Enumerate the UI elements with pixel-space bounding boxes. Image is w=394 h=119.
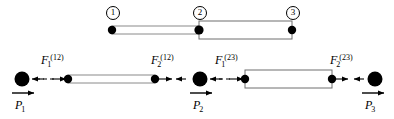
fb-element-12 <box>68 75 155 83</box>
freebody-group <box>15 70 383 88</box>
assembly-element-12 <box>112 26 199 34</box>
fb-node-1 <box>15 72 30 87</box>
bar-assembly-figure: 1 2 3 F1(12) F2(12) F1(23) F2(23) P1 P2 … <box>0 0 394 119</box>
assembly-node-2 <box>194 25 203 34</box>
load-P2-subscript: 2 <box>199 105 203 114</box>
force-F1-23-superscript: (23) <box>224 53 237 62</box>
fb-element12-left-node <box>64 75 72 83</box>
assembly-node-2-number: 2 <box>193 6 207 20</box>
force-label-F1-23: F1(23) <box>215 54 238 69</box>
load-P3-subscript: 3 <box>371 105 375 114</box>
force-F2-23-superscript: (23) <box>339 53 352 62</box>
load-label-P1: P1 <box>15 99 25 114</box>
assembly-node-2-label: 2 <box>193 6 207 20</box>
assembly-element-23 <box>199 21 292 39</box>
load-label-P3: P3 <box>365 99 375 114</box>
assembly-node-1-number: 1 <box>106 6 120 20</box>
force-F1-12-superscript: (12) <box>50 53 63 62</box>
fb-node-3 <box>368 72 383 87</box>
force-label-F2-23: F2(23) <box>330 54 353 69</box>
load-P1-subscript: 1 <box>21 105 25 114</box>
fb-node-2 <box>193 72 208 87</box>
assembly-group <box>108 21 296 39</box>
assembly-node-1 <box>108 26 116 34</box>
fb-element23-left-node <box>241 75 249 83</box>
assembly-node-3 <box>288 26 296 34</box>
force-label-F2-12: F2(12) <box>151 54 174 69</box>
force-F2-12-superscript: (12) <box>160 53 173 62</box>
load-label-P2: P2 <box>193 99 203 114</box>
force-label-F1-12: F1(12) <box>41 54 64 69</box>
assembly-node-3-label: 3 <box>286 6 300 20</box>
fb-element-23 <box>245 70 332 88</box>
assembly-node-1-label: 1 <box>106 6 120 20</box>
assembly-node-3-number: 3 <box>286 6 300 20</box>
